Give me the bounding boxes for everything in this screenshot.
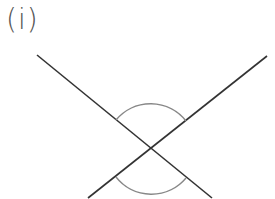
top-angle-arc (116, 104, 186, 121)
bottom-angle-arc (116, 177, 186, 194)
line-b (88, 56, 267, 198)
intersecting-lines-diagram (0, 0, 275, 199)
line-a (37, 55, 212, 198)
